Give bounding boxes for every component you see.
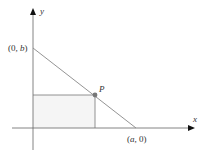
point-p-label: P <box>98 84 105 94</box>
x-intercept-label: (a, 0) <box>127 134 147 144</box>
y-axis-label: y <box>39 6 44 16</box>
x-axis-arrow-icon <box>188 125 195 131</box>
y-intercept-label: (0, b) <box>8 43 28 53</box>
point-p <box>93 93 98 98</box>
inscribed-rectangle-fill <box>33 95 95 128</box>
diagram-canvas: y x (0, b) (a, 0) P <box>0 0 202 161</box>
x-axis-label: x <box>192 114 197 124</box>
y-axis-arrow-icon <box>30 8 36 15</box>
